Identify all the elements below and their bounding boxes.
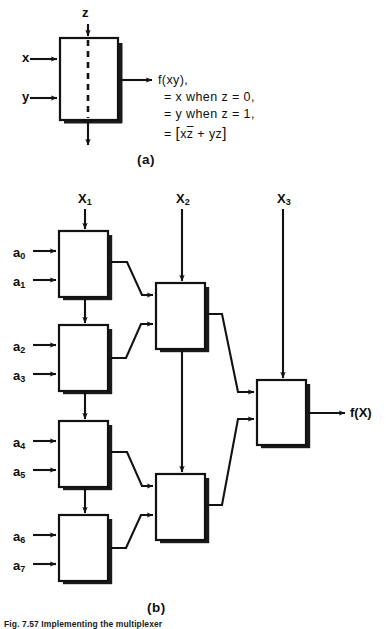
label-data-a6: a6 <box>13 528 25 545</box>
label-data-a1: a1 <box>13 273 25 290</box>
mux-b2-body <box>59 325 108 391</box>
net-b3-to-b6 <box>110 452 153 486</box>
label-data-a0: a0 <box>13 244 25 261</box>
figure-caption: Fig. 7.57 Implementing the multiplexer <box>4 619 162 629</box>
part-label-a: (a) <box>137 152 155 167</box>
net-b1-to-b5 <box>110 262 153 295</box>
output-expr-line-4: = [xz + yz] <box>164 124 227 141</box>
mux-b5-body <box>156 283 205 349</box>
net-b4-to-b6 <box>110 515 153 548</box>
label-input-x: x <box>22 51 29 64</box>
mux-b4-body <box>59 515 108 581</box>
part-label-b: (b) <box>147 600 166 615</box>
expr-term1-b-complement: z <box>187 127 194 141</box>
expr-operator: + <box>197 127 205 141</box>
output-expr-line-2: = x when z = 0, <box>164 90 255 104</box>
expr-close-bracket: ] <box>222 124 227 141</box>
label-output-fx: f(X) <box>350 406 372 419</box>
expr-term1-a: x <box>180 127 187 141</box>
expr-term2: yz <box>209 127 222 141</box>
mux-b6-body <box>156 474 205 540</box>
mux-b7-body <box>257 380 306 445</box>
label-input-y: y <box>22 90 29 103</box>
label-select-x2: X2 <box>176 190 190 207</box>
label-data-a4: a4 <box>13 434 25 451</box>
label-z-control: z <box>82 6 89 19</box>
mux-b1-body <box>59 231 108 297</box>
label-data-a3: a3 <box>13 367 25 384</box>
label-select-x3: X3 <box>277 190 291 207</box>
net-b2-to-b5 <box>110 324 153 358</box>
label-data-a7: a7 <box>13 557 25 574</box>
mux-b3-body <box>59 421 108 487</box>
net-b6-to-b7 <box>207 419 254 505</box>
output-expr-line-1: f(xy), <box>158 73 188 87</box>
expr-equals: = <box>164 127 172 141</box>
output-expr-line-3: = y when z = 1, <box>164 107 255 121</box>
label-data-a5: a5 <box>13 463 25 480</box>
net-b5-to-b7 <box>207 314 254 392</box>
label-select-x1: X1 <box>78 190 92 207</box>
label-data-a2: a2 <box>13 338 25 355</box>
